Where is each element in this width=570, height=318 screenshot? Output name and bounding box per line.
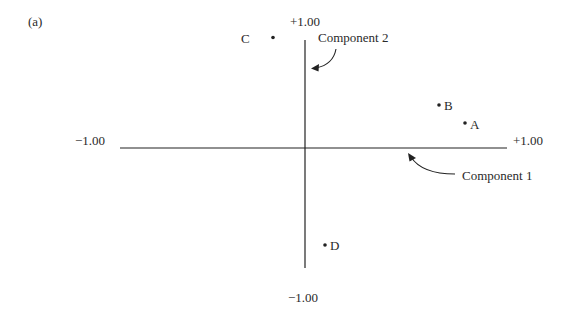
point-A-label: A	[470, 117, 480, 132]
component-plot-svg: (a) +1.00 −1.00 −1.00 +1.00 C B A D Comp…	[0, 0, 570, 318]
point-C-marker	[271, 36, 275, 40]
point-D-label: D	[330, 238, 339, 253]
x-axis-max-label: +1.00	[513, 133, 543, 148]
component-plot-figure: (a) +1.00 −1.00 −1.00 +1.00 C B A D Comp…	[0, 0, 570, 318]
y-axis-max-label: +1.00	[290, 14, 320, 29]
component-2-arrow	[316, 49, 336, 68]
x-axis-min-label: −1.00	[75, 133, 105, 148]
component-1-label: Component 1	[462, 168, 532, 183]
point-D-marker	[323, 243, 327, 247]
point-D: D	[323, 238, 339, 253]
component-2-arrowhead-icon	[311, 64, 319, 72]
point-C: C	[241, 31, 275, 46]
point-C-label: C	[241, 31, 250, 46]
component-2-label: Component 2	[318, 30, 388, 45]
point-B-marker	[437, 103, 441, 107]
point-B: B	[437, 98, 453, 113]
point-A: A	[463, 117, 480, 132]
panel-label: (a)	[28, 14, 42, 29]
component-1-arrow	[411, 157, 455, 174]
component-1-arrowhead-icon	[408, 153, 416, 162]
y-axis-min-label: −1.00	[288, 290, 318, 305]
point-B-label: B	[444, 98, 453, 113]
point-A-marker	[463, 121, 467, 125]
